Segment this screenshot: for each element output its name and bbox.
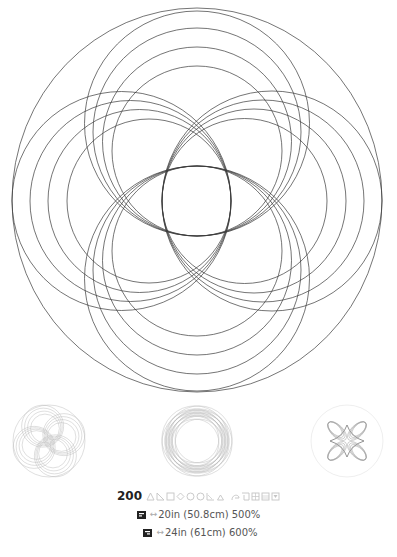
- diamond-icon[interactable]: [176, 492, 185, 501]
- triangle-icon[interactable]: [146, 492, 155, 501]
- square-icon[interactable]: [166, 492, 175, 501]
- right-triangle-icon[interactable]: [156, 492, 165, 501]
- hoop-icon: [143, 528, 152, 536]
- circle-outline-icon[interactable]: [196, 492, 205, 501]
- thumbnail-ring[interactable]: [157, 401, 237, 481]
- thumbnail-star[interactable]: [307, 401, 387, 481]
- hoop-icon: [137, 510, 146, 518]
- hoop-size-text: 20in (50.8cm) 500%: [158, 509, 260, 520]
- main-design-preview: [0, 0, 397, 400]
- hoop-size-row: ↔ 20in (50.8cm) 500%: [0, 507, 397, 521]
- design-info-row: 200: [0, 488, 397, 504]
- crop-icon[interactable]: [241, 492, 250, 501]
- width-arrow-icon: ↔: [156, 527, 164, 537]
- hoop-size-row: ↔ 24in (61cm) 600%: [0, 525, 397, 539]
- circle-icon[interactable]: [186, 492, 195, 501]
- stitch-count: 200: [117, 489, 142, 503]
- grid-icon[interactable]: [251, 492, 260, 501]
- fill-icon[interactable]: [271, 492, 280, 501]
- thumbnail-swirl[interactable]: [9, 401, 89, 481]
- corner-triangle-icon[interactable]: [206, 492, 215, 501]
- tool-icon-strip: [146, 492, 280, 501]
- loop-icon[interactable]: [231, 492, 240, 501]
- small-triangle-icon[interactable]: [216, 492, 225, 501]
- width-arrow-icon: ↔: [150, 509, 158, 519]
- grid-small-icon[interactable]: [261, 492, 270, 501]
- hoop-size-text: 24in (61cm) 600%: [165, 527, 258, 538]
